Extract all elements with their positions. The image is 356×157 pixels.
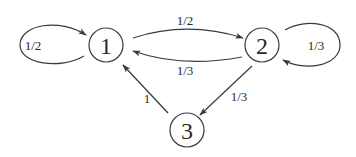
node-1: 1 [89,28,123,62]
node-2-label: 2 [256,33,268,59]
edge-label-1-to-2: 1/2 [177,13,194,28]
edge-2-to-1 [133,51,242,62]
edge-label-2-to-3: 1/3 [231,89,248,104]
node-2: 2 [245,28,279,62]
node-3-label: 3 [181,118,193,144]
state-diagram: 1/2 1/2 1/3 1/3 1/3 1 1 2 3 [0,0,356,157]
node-1-label: 1 [100,33,112,59]
edge-label-1-to-1: 1/2 [25,38,42,53]
edge-label-2-to-2: 1/3 [308,38,325,53]
edge-label-3-to-1: 1 [144,91,151,106]
edge-1-to-2 [133,29,243,38]
edge-3-to-1 [123,65,168,113]
edge-label-2-to-1: 1/3 [177,63,194,78]
node-3: 3 [170,113,204,147]
